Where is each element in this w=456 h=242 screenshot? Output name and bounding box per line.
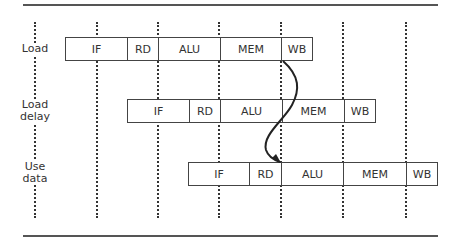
stage-alu: ALU <box>221 100 283 122</box>
stage-rd: RD <box>250 163 282 185</box>
row-label-line: delay <box>15 111 55 123</box>
stage-rd: RD <box>128 38 159 60</box>
stage-wb: WB <box>407 163 437 185</box>
stage-if: IF <box>128 100 190 122</box>
pipeline-row-load: IF RD ALU MEM WB <box>65 37 313 61</box>
cycle-line-6 <box>405 22 407 218</box>
stage-alu: ALU <box>159 38 221 60</box>
pipeline-row-use-data: IF RD ALU MEM WB <box>188 162 438 186</box>
stage-mem: MEM <box>283 100 345 122</box>
top-rule <box>23 4 438 6</box>
row-label-use-data: Use data <box>15 161 55 185</box>
bottom-rule <box>23 235 438 237</box>
stage-alu: ALU <box>282 163 344 185</box>
row-label-load-delay: Load delay <box>15 99 55 123</box>
row-label-load: Load <box>15 43 55 55</box>
stage-mem: MEM <box>221 38 282 60</box>
row-label-line: data <box>15 173 55 185</box>
row-label-text: Load <box>22 42 48 55</box>
stage-if: IF <box>66 38 128 60</box>
stage-wb: WB <box>282 38 312 60</box>
stage-mem: MEM <box>344 163 407 185</box>
stage-if: IF <box>189 163 250 185</box>
stage-wb: WB <box>345 100 375 122</box>
stage-rd: RD <box>190 100 221 122</box>
pipeline-row-load-delay: IF RD ALU MEM WB <box>127 99 376 123</box>
